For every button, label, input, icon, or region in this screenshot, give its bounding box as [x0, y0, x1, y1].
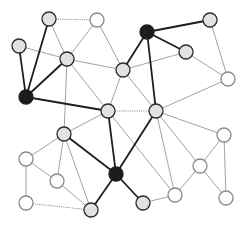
node-V-white [50, 174, 64, 188]
node-E-gray [60, 52, 74, 66]
background [0, 0, 246, 227]
node-G-gray [116, 63, 130, 77]
node-M-gray [57, 127, 71, 141]
node-F-black [140, 25, 154, 39]
node-W-white [19, 196, 33, 210]
node-C-black [19, 90, 33, 104]
node-U-white [19, 152, 33, 166]
node-P-gray [136, 196, 150, 210]
node-L-gray [149, 104, 163, 118]
node-N-black [109, 167, 123, 181]
node-I-gray [179, 45, 193, 59]
node-J-white [221, 72, 235, 86]
node-Q-white [217, 128, 231, 142]
network-graph [0, 0, 246, 227]
node-B-gray [12, 39, 26, 53]
node-O-gray [84, 203, 98, 217]
node-T-white [168, 188, 182, 202]
node-S-white [219, 191, 233, 205]
node-A-gray [42, 12, 56, 26]
node-H-gray [203, 13, 217, 27]
node-K-gray [101, 104, 115, 118]
node-D-white [90, 13, 104, 27]
node-R-white [193, 159, 207, 173]
